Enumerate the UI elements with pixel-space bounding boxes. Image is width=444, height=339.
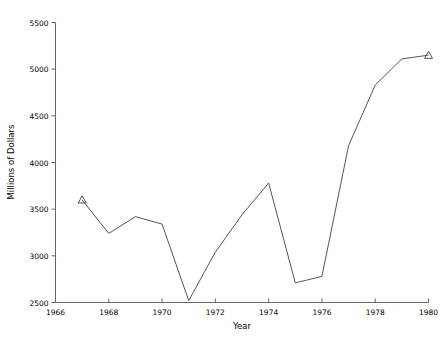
x-tick-label: 1968	[99, 308, 118, 317]
line-chart: 2500300035004000450050005500 19661968197…	[0, 0, 444, 339]
x-tick-label: 1974	[259, 308, 278, 317]
x-axis-title: Year	[232, 321, 252, 331]
y-tick-label: 5000	[29, 65, 48, 74]
x-tick-label: 1972	[206, 308, 225, 317]
x-tick-label: 1970	[153, 308, 172, 317]
y-tick-label: 3500	[29, 205, 48, 214]
y-tick-label: 4500	[29, 112, 48, 121]
y-tick-label: 4000	[29, 159, 48, 168]
y-tick-label: 5500	[29, 19, 48, 28]
chart-background	[0, 0, 444, 339]
y-axis-title: Millions of Dollars	[6, 124, 16, 200]
chart-container: 2500300035004000450050005500 19661968197…	[0, 0, 444, 339]
x-tick-label: 1966	[46, 308, 65, 317]
x-tick-label: 1976	[312, 308, 331, 317]
y-tick-label: 3000	[29, 252, 48, 261]
y-tick-label: 2500	[29, 299, 48, 308]
x-tick-label: 1978	[366, 308, 385, 317]
x-tick-label: 1980	[419, 308, 438, 317]
